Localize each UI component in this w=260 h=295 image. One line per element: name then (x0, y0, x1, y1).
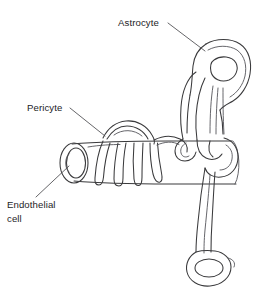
astrocyte-endfoot-nucleus (195, 259, 223, 277)
astrocyte-leader-line (168, 23, 205, 51)
pericyte-leader-line (70, 108, 105, 136)
endothelial-cell-leader-line (36, 166, 69, 197)
neurovascular-unit-illustration: Astrocyte Pericyte Endothelial cell (0, 0, 260, 295)
endothelial-cell-label-line1: Endothelial (7, 199, 56, 210)
endothelial-cell-vessel (60, 141, 239, 184)
astrocyte-label: Astrocyte (118, 17, 159, 28)
endothelial-cell-label-line2: cell (7, 213, 22, 224)
diagram-canvas: Astrocyte Pericyte Endothelial cell (0, 0, 260, 295)
pericyte-cell (95, 121, 187, 186)
pericyte-label: Pericyte (27, 102, 62, 113)
astrocyte-nucleus (211, 57, 238, 81)
